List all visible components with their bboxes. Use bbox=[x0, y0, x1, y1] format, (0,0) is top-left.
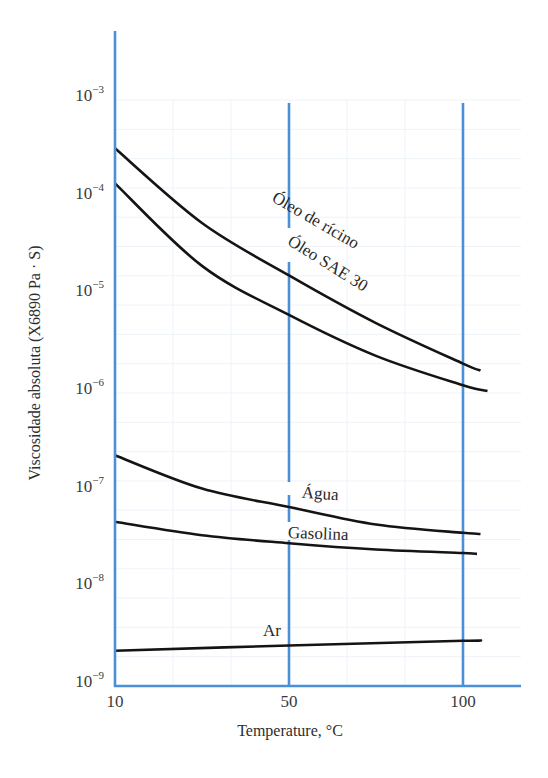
y-axis-title: Viscosidade absoluta (X6890 Pa · S) bbox=[26, 246, 44, 481]
y-tick-label: 10−8 bbox=[75, 571, 104, 593]
y-tick-label: 10−9 bbox=[75, 669, 104, 691]
y-tick-label: 10−4 bbox=[75, 181, 104, 203]
curve-oleo-de-ricino bbox=[115, 148, 481, 370]
curve-label-ar: Ar bbox=[263, 621, 281, 640]
y-tick-label: 10−3 bbox=[75, 83, 104, 105]
curve-label-oleo-de-ricino: Óleo de rícino bbox=[269, 188, 363, 253]
x-tick-label: 50 bbox=[281, 692, 298, 711]
grid bbox=[115, 100, 521, 686]
y-tick-label: 10−5 bbox=[75, 278, 104, 300]
x-tick-label: 100 bbox=[450, 692, 476, 711]
x-tick-label: 10 bbox=[107, 692, 124, 711]
viscosity-chart: Óleo de rícinoÓleo SAE 30ÁguaGasolinaAr … bbox=[0, 0, 548, 778]
y-tick-labels: 10−910−810−710−610−510−410−3 bbox=[75, 83, 104, 691]
y-tick-label: 10−7 bbox=[75, 474, 104, 496]
mask-agua bbox=[286, 482, 292, 495]
curve-label-agua: Água bbox=[301, 483, 340, 505]
curve-ar bbox=[115, 640, 481, 650]
curve-label-gasolina: Gasolina bbox=[288, 523, 350, 544]
y-tick-label: 10−6 bbox=[75, 376, 104, 398]
x-tick-labels: 1050100 bbox=[107, 692, 476, 711]
curve-agua bbox=[115, 455, 481, 534]
x-axis-title: Temperature, °C bbox=[237, 722, 343, 740]
curve-labels: Óleo de rícinoÓleo SAE 30ÁguaGasolinaAr bbox=[263, 188, 371, 640]
curves bbox=[115, 148, 488, 650]
